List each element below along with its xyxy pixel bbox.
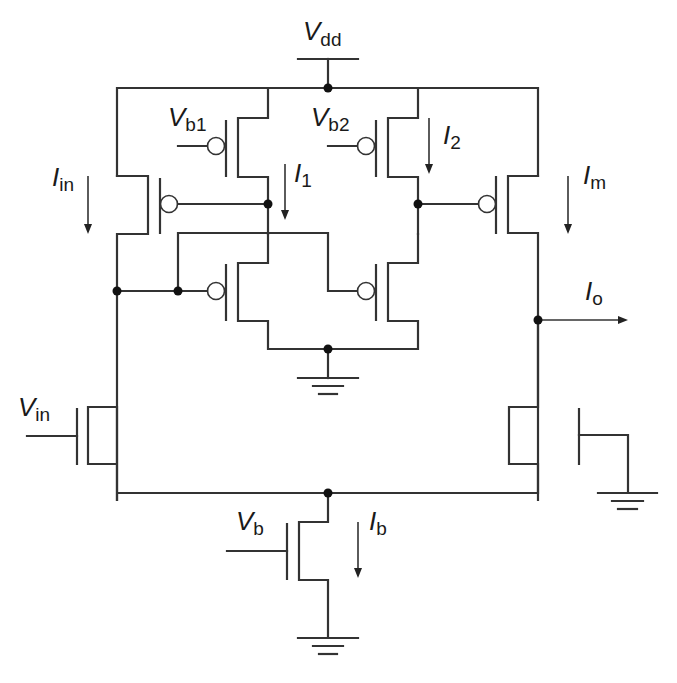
output-current-arrow: [538, 316, 628, 324]
cross-coupled-pair: [117, 233, 418, 394]
label-io: Io: [585, 276, 603, 309]
pmos-input-transistor: [117, 176, 268, 500]
nmos-right-transistor: [579, 408, 657, 509]
pmos-vb2-transistor: [328, 88, 418, 234]
label-vb2: Vb2: [311, 102, 349, 135]
nmos-vin-transistor: [27, 320, 538, 500]
label-vb1: Vb1: [168, 102, 206, 135]
label-vdd: Vdd: [303, 16, 341, 50]
label-i1: I1: [294, 158, 312, 191]
label-iin: Iin: [52, 162, 74, 195]
pmos-vb1-transistor: [178, 88, 268, 234]
label-im: Im: [583, 160, 606, 193]
label-vb: Vb: [236, 506, 264, 539]
label-vin: Vin: [18, 392, 50, 425]
pmos-mirror-transistor: [418, 176, 538, 500]
label-ib: Ib: [369, 506, 387, 539]
circuit-diagram: Vdd Vb1 Vb2 Iin I1 I2 Im Io Vin Vb Ib: [0, 0, 677, 683]
label-i2: I2: [443, 120, 461, 153]
